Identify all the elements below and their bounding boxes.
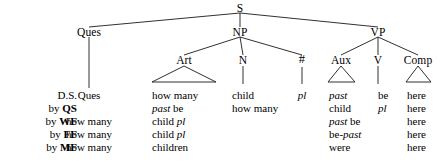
triangle-art [152, 66, 216, 82]
row-label-prefix: by [49, 102, 63, 114]
cell-ques-row-5: how many [66, 142, 112, 153]
morpheme: how many [66, 115, 112, 127]
morpheme: child [152, 115, 177, 127]
morpheme: be [347, 115, 360, 127]
morpheme: child [232, 89, 254, 101]
morpheme-italic: past [343, 128, 361, 140]
row-label-prefix: by [46, 141, 60, 153]
branch-np-art [184, 37, 240, 55]
tree-node-vp: VP [371, 27, 386, 39]
row-label-prefix: by [46, 115, 60, 127]
branch-s-ques [89, 13, 240, 27]
tree-node-v: V [374, 55, 382, 67]
morpheme: how many [66, 141, 112, 153]
tree-node-ques: Ques [77, 27, 101, 39]
cell-comp-row-1: here [407, 90, 426, 101]
tree-node-comp: Comp [404, 55, 433, 67]
branch-vp-comp [378, 37, 418, 55]
syntax-tree-figure: S Ques NP VP Art N # Aux V Comp D.S.Ques… [0, 0, 446, 163]
cell-comp-row-4: here [407, 129, 426, 140]
tree-node-number: # [299, 54, 305, 66]
morpheme-italic: pl [177, 115, 186, 127]
cell-hash-row-1: pl [298, 90, 307, 101]
morpheme: Ques [78, 89, 101, 101]
morpheme: child [152, 128, 177, 140]
morpheme-italic: pl [298, 89, 307, 101]
cell-ques-row-1: Ques [78, 90, 101, 101]
cell-n-row-2: how many [232, 103, 278, 114]
cell-aux-row-2: child [329, 103, 351, 114]
cell-v-row-2: pl [378, 103, 387, 114]
morpheme: how many [232, 102, 278, 114]
cell-aux-row-3: past be [329, 116, 360, 127]
morpheme: be- [329, 128, 343, 140]
morpheme-italic: pl [177, 128, 186, 140]
tree-node-s: S [237, 3, 244, 15]
morpheme: child [329, 102, 351, 114]
branch-np-n [240, 37, 243, 55]
triangle-comp [406, 66, 431, 82]
cell-aux-row-1: past [329, 90, 347, 101]
cell-ques-row-3: how many [66, 116, 112, 127]
morpheme: here [407, 89, 426, 101]
cell-comp-row-2: here [407, 103, 426, 114]
row-label-prefix: by [50, 128, 64, 140]
branch-vp-aux [341, 37, 378, 55]
morpheme-italic: pl [378, 102, 387, 114]
tree-node-np: NP [233, 27, 248, 39]
row-label-qs: by QS [49, 103, 77, 114]
cell-aux-row-4: be-past [329, 129, 361, 140]
morpheme: here [407, 102, 426, 114]
tree-node-n: N [239, 55, 247, 67]
row-label-ds.: D.S. [57, 90, 77, 101]
tree-node-aux: Aux [331, 55, 351, 67]
cell-ques-row-4: how many [66, 129, 112, 140]
morpheme: children [152, 141, 188, 153]
cell-comp-row-3: here [407, 116, 426, 127]
branch-s-vp [240, 13, 378, 27]
morpheme: how many [66, 128, 112, 140]
morpheme-italic: past [329, 115, 347, 127]
morpheme: were [329, 141, 350, 153]
cell-art-row-3: child pl [152, 116, 185, 127]
morpheme: be [170, 102, 183, 114]
morpheme: how many [152, 89, 198, 101]
row-label-name: D.S. [57, 89, 77, 101]
cell-v-row-1: be [378, 90, 388, 101]
morpheme: here [407, 141, 426, 153]
cell-aux-row-5: were [329, 142, 350, 153]
cell-art-row-2: past be [152, 103, 183, 114]
tree-node-art: Art [176, 55, 192, 67]
morpheme: here [407, 128, 426, 140]
cell-art-row-5: children [152, 142, 188, 153]
branch-np-hash [240, 37, 302, 55]
row-label-name: QS [62, 102, 77, 114]
cell-art-row-1: how many [152, 90, 198, 101]
morpheme: be [378, 89, 388, 101]
morpheme-italic: past [152, 102, 170, 114]
cell-comp-row-5: here [407, 142, 426, 153]
morpheme-italic: past [329, 89, 347, 101]
triangle-aux [328, 66, 355, 82]
morpheme: here [407, 115, 426, 127]
cell-art-row-4: child pl [152, 129, 185, 140]
cell-n-row-1: child [232, 90, 254, 101]
